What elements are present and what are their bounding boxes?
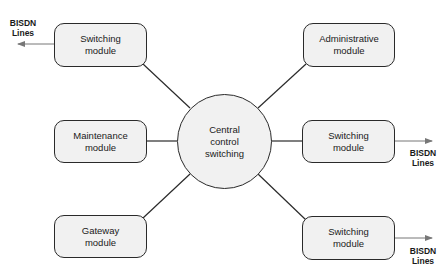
- ext-label-line2: Lines: [408, 158, 438, 168]
- center-label-line1: Central: [209, 124, 240, 136]
- module-label: Administrative: [319, 33, 379, 45]
- center-label-line3: switching: [205, 148, 244, 160]
- module-sublabel: module: [85, 45, 116, 57]
- switching-module-top-left: Switching module: [54, 23, 147, 67]
- module-sublabel: module: [85, 237, 116, 249]
- switching-module-middle-right: Switching module: [302, 120, 395, 163]
- module-label: Maintenance: [73, 130, 127, 142]
- module-label: Switching: [80, 33, 121, 45]
- module-label: Gateway: [82, 225, 120, 237]
- bisdn-lines-label-bottom-right: BISDN Lines: [408, 246, 438, 266]
- module-label: Switching: [328, 226, 369, 238]
- ext-label-line1: BISDN: [408, 246, 438, 256]
- module-label: Switching: [328, 130, 369, 142]
- ext-label-line2: Lines: [408, 256, 438, 266]
- ext-label-line1: BISDN: [8, 18, 38, 28]
- maintenance-module: Maintenance module: [54, 120, 147, 163]
- ext-label-line2: Lines: [8, 28, 38, 38]
- switching-module-bottom-right: Switching module: [302, 216, 395, 260]
- central-control-switching-node: Central control switching: [177, 94, 272, 189]
- module-sublabel: module: [333, 45, 364, 57]
- bisdn-lines-label-middle-right: BISDN Lines: [408, 148, 438, 168]
- module-sublabel: module: [85, 142, 116, 154]
- bisdn-lines-label-top-left: BISDN Lines: [8, 18, 38, 38]
- module-sublabel: module: [333, 142, 364, 154]
- gateway-module: Gateway module: [54, 215, 147, 258]
- administrative-module: Administrative module: [303, 23, 395, 67]
- center-label-line2: control: [210, 136, 239, 148]
- ext-label-line1: BISDN: [408, 148, 438, 158]
- module-sublabel: module: [333, 238, 364, 250]
